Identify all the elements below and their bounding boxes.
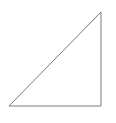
diagram-canvas [0,0,116,123]
right-triangle-shape [9,12,101,106]
